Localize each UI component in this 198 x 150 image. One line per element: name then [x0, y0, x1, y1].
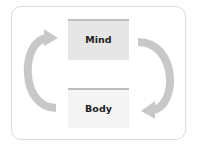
- mind-node-bar: [68, 19, 129, 21]
- right-arrow-icon: [138, 42, 170, 119]
- body-node-bar: [68, 88, 129, 90]
- mind-label: Mind: [85, 34, 111, 45]
- mind-node: Mind: [68, 19, 129, 60]
- left-arrow-icon: [28, 29, 58, 108]
- body-node: Body: [68, 88, 129, 128]
- body-label: Body: [85, 103, 112, 114]
